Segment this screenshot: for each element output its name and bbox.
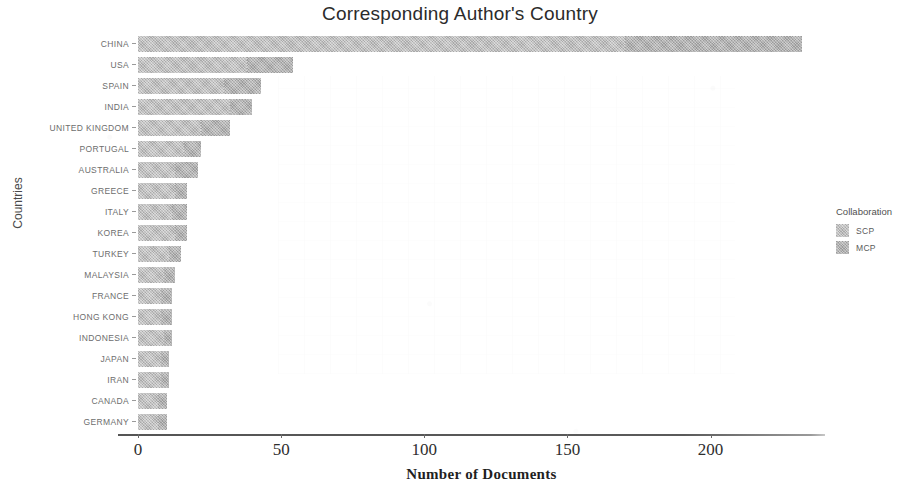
bar[interactable] (138, 99, 252, 115)
bar-segment-scp[interactable] (138, 57, 247, 73)
bar-segment-mcp[interactable] (161, 372, 170, 388)
x-axis-tick-mark (567, 434, 568, 438)
y-axis-tick-mark (132, 64, 136, 65)
bar-row: UNITED KINGDOM (138, 120, 825, 141)
bar-segment-scp[interactable] (138, 330, 164, 346)
bar-segment-scp[interactable] (138, 204, 172, 220)
bar-segment-scp[interactable] (138, 36, 625, 52)
bar-segment-scp[interactable] (138, 120, 201, 136)
bar-segment-scp[interactable] (138, 288, 161, 304)
y-axis-tick-label: AUSTRALIA (79, 162, 129, 178)
bar[interactable] (138, 78, 261, 94)
bar-row: MALAYSIA (138, 267, 825, 288)
bar-row: USA (138, 57, 825, 78)
y-axis-tick-label: GERMANY (84, 414, 129, 430)
legend-item-mcp[interactable]: MCP (836, 240, 914, 255)
bar-row: CHINA (138, 36, 825, 57)
y-axis-tick-label: TURKEY (92, 246, 129, 262)
y-axis-tick-label: INDONESIA (79, 330, 129, 346)
bar-row: JAPAN (138, 351, 825, 372)
bar[interactable] (138, 183, 187, 199)
y-axis-tick-mark (132, 337, 136, 338)
bar-row: KOREA (138, 225, 825, 246)
y-axis-tick-mark (132, 190, 136, 191)
bar[interactable] (138, 162, 198, 178)
bar-segment-mcp[interactable] (158, 393, 167, 409)
y-axis-tick-mark (132, 148, 136, 149)
y-axis-tick-label: INDIA (105, 99, 129, 115)
y-axis-tick-mark (132, 421, 136, 422)
x-axis-tick-label: 50 (273, 440, 290, 460)
bar-row: INDONESIA (138, 330, 825, 351)
bar-segment-mcp[interactable] (172, 204, 186, 220)
bar-segment-mcp[interactable] (161, 351, 170, 367)
bar[interactable] (138, 141, 201, 157)
bar-segment-mcp[interactable] (164, 330, 173, 346)
bar-segment-mcp[interactable] (161, 288, 172, 304)
bar[interactable] (138, 246, 181, 262)
chart-container: Corresponding Author's Country Countries… (0, 0, 914, 490)
bar[interactable] (138, 309, 172, 325)
bar-segment-scp[interactable] (138, 372, 161, 388)
y-axis-tick-label: CHINA (101, 36, 129, 52)
bar-segment-mcp[interactable] (158, 414, 167, 430)
bar-segment-mcp[interactable] (164, 267, 175, 283)
bar[interactable] (138, 288, 172, 304)
bar-segment-mcp[interactable] (230, 99, 253, 115)
y-axis-tick-mark (132, 106, 136, 107)
bar-segment-mcp[interactable] (175, 225, 186, 241)
y-axis-tick-label: UNITED KINGDOM (49, 120, 129, 136)
bar[interactable] (138, 330, 172, 346)
bar-series-group: CHINAUSASPAININDIAUNITED KINGDOMPORTUGAL… (138, 36, 825, 435)
bar-segment-scp[interactable] (138, 162, 175, 178)
bar[interactable] (138, 351, 169, 367)
bar-segment-mcp[interactable] (201, 120, 230, 136)
bar[interactable] (138, 393, 167, 409)
bar-segment-scp[interactable] (138, 351, 161, 367)
bar-segment-scp[interactable] (138, 414, 158, 430)
bar-row: ITALY (138, 204, 825, 225)
bar-segment-scp[interactable] (138, 246, 169, 262)
bar-segment-scp[interactable] (138, 183, 175, 199)
bar-segment-mcp[interactable] (224, 78, 261, 94)
bar-segment-mcp[interactable] (247, 57, 293, 73)
y-axis-tick-label: CANADA (91, 393, 129, 409)
bar-segment-mcp[interactable] (175, 162, 198, 178)
y-axis-tick-label: JAPAN (100, 351, 129, 367)
bar-segment-scp[interactable] (138, 99, 230, 115)
bar-row: HONG KONG (138, 309, 825, 330)
bar-row: CANADA (138, 393, 825, 414)
bar-segment-scp[interactable] (138, 309, 161, 325)
bar-row: IRAN (138, 372, 825, 393)
bar-row: GREECE (138, 183, 825, 204)
bar[interactable] (138, 57, 293, 73)
y-axis-tick-label: MALAYSIA (84, 267, 129, 283)
bar[interactable] (138, 225, 187, 241)
bar-segment-mcp[interactable] (625, 36, 802, 52)
legend-item-scp[interactable]: SCP (836, 223, 914, 238)
x-axis-tick-mark (711, 434, 712, 438)
bar-segment-mcp[interactable] (184, 141, 201, 157)
bar-segment-mcp[interactable] (161, 309, 172, 325)
bar[interactable] (138, 372, 169, 388)
bar-segment-scp[interactable] (138, 78, 224, 94)
x-axis-tick-mark (424, 434, 425, 438)
chart-title: Corresponding Author's Country (0, 3, 914, 25)
x-axis-tick-label: 0 (134, 440, 143, 460)
bar[interactable] (138, 204, 187, 220)
bar-segment-scp[interactable] (138, 393, 158, 409)
bar-segment-scp[interactable] (138, 141, 184, 157)
bar-segment-mcp[interactable] (175, 183, 186, 199)
legend-title: Collaboration (836, 206, 914, 217)
legend-label: MCP (856, 243, 876, 253)
bar-segment-scp[interactable] (138, 225, 175, 241)
bar-segment-scp[interactable] (138, 267, 164, 283)
bar-row: PORTUGAL (138, 141, 825, 162)
bar[interactable] (138, 36, 802, 52)
bar-row: AUSTRALIA (138, 162, 825, 183)
legend-items: SCPMCP (836, 223, 914, 255)
bar[interactable] (138, 267, 175, 283)
bar[interactable] (138, 414, 167, 430)
bar-segment-mcp[interactable] (169, 246, 180, 262)
bar[interactable] (138, 120, 230, 136)
